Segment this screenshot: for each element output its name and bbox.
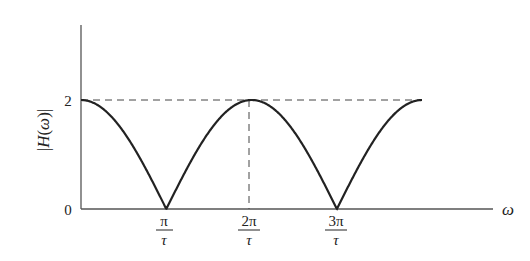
- y-axis-label: |H(ω)|: [34, 109, 53, 151]
- svg-text:|H(ω)|: |H(ω)|: [34, 109, 53, 151]
- y-tick-0: 0: [64, 202, 72, 218]
- chart: 2 0 |H(ω)| π τ 2π τ 3π τ ω: [0, 0, 530, 261]
- magnitude-curve: [81, 100, 422, 209]
- svg-text:τ: τ: [333, 232, 339, 248]
- svg-text:τ: τ: [246, 232, 252, 248]
- x-tick-pi: π τ: [156, 213, 173, 248]
- y-tick-2: 2: [64, 93, 72, 109]
- svg-text:2π: 2π: [241, 213, 257, 229]
- x-tick-3pi: 3π τ: [325, 213, 347, 248]
- svg-text:τ: τ: [161, 232, 167, 248]
- x-tick-2pi: 2π τ: [238, 213, 260, 248]
- svg-text:3π: 3π: [328, 213, 344, 229]
- svg-text:π: π: [160, 213, 168, 229]
- x-axis-label: ω: [502, 200, 514, 219]
